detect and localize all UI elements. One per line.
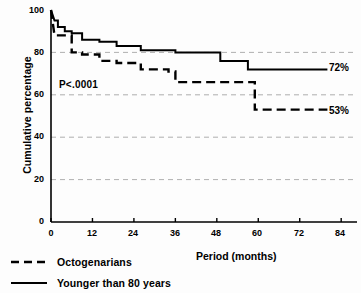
gridlines bbox=[51, 52, 355, 179]
legend-item-younger-than-80: Younger than 80 years bbox=[10, 272, 210, 293]
legend-label-octogenarians: Octogenarians bbox=[57, 256, 132, 268]
survival-curve-younger-than-80 bbox=[51, 10, 327, 69]
kaplan-meier-survival-chart: Cumulative percentage 100 80 60 40 20 0 … bbox=[0, 0, 361, 293]
solid-line-icon bbox=[10, 278, 48, 288]
legend: Octogenarians Younger than 80 years bbox=[10, 251, 210, 293]
dashed-line-icon bbox=[10, 257, 48, 267]
plot-canvas bbox=[0, 0, 361, 293]
legend-item-octogenarians: Octogenarians bbox=[10, 251, 210, 272]
legend-label-younger-than-80: Younger than 80 years bbox=[57, 277, 171, 289]
